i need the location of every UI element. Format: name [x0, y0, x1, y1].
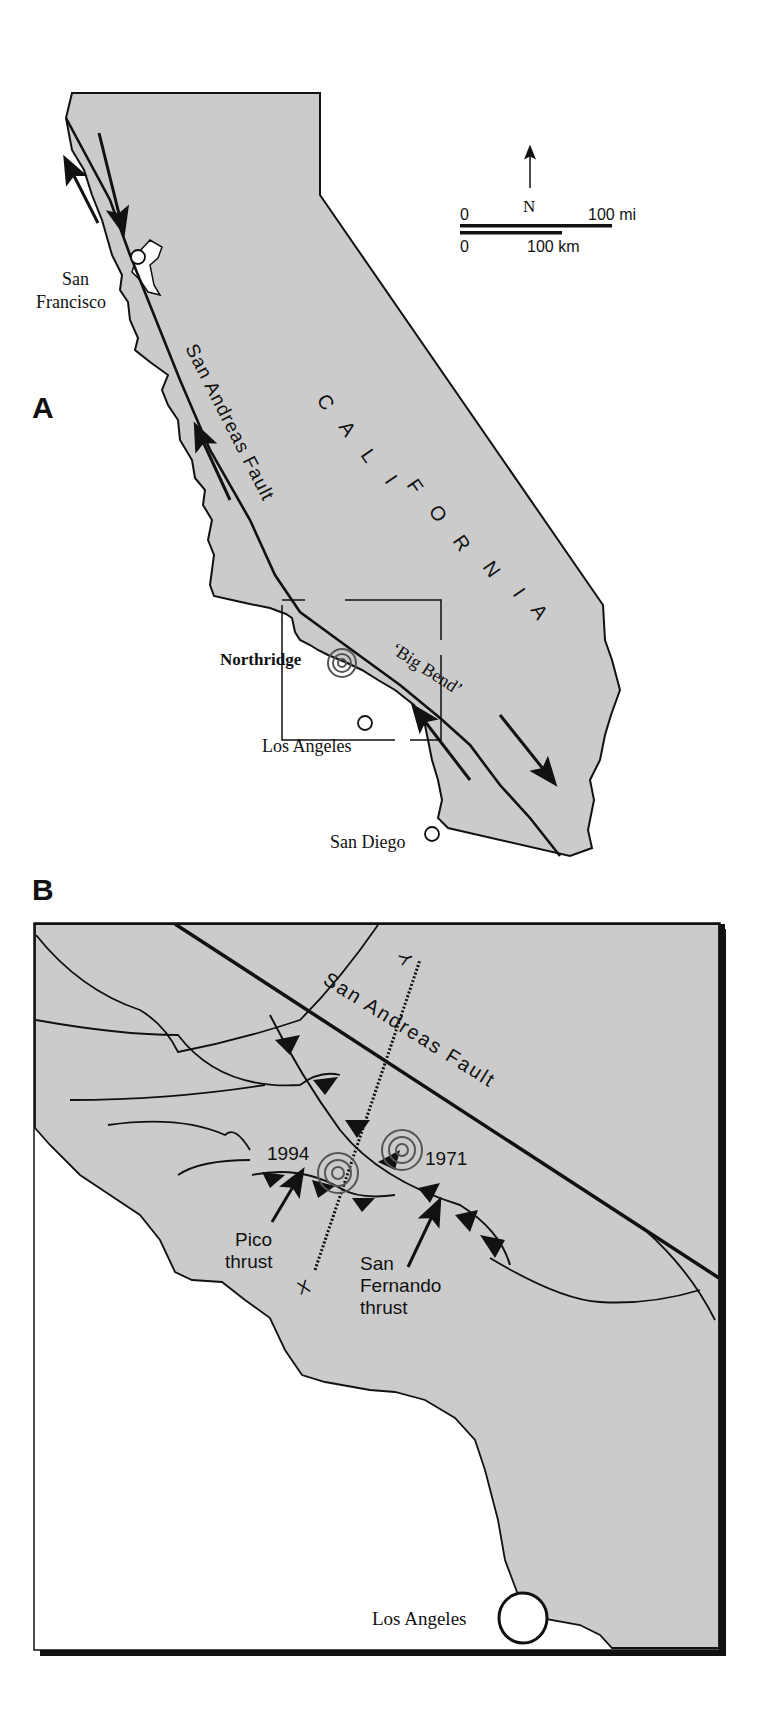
san-fernando-label-1: San: [360, 1253, 394, 1274]
san-fernando-label-2: Fernando: [360, 1275, 441, 1296]
pico-label-1: Pico: [235, 1229, 272, 1250]
los-angeles-label: Los Angeles: [262, 736, 352, 756]
los-angeles-city-icon: [499, 1593, 547, 1643]
panel-a: A San Francisco Los Angeles San Diego No…: [32, 93, 636, 856]
los-angeles-label-b: Los Angeles: [372, 1608, 466, 1629]
san-francisco-dot: [131, 250, 145, 264]
figure-canvas: A San Francisco Los Angeles San Diego No…: [0, 0, 757, 1712]
scale-mi-zero: 0: [460, 206, 469, 223]
quake-1994-label: 1994: [267, 1143, 310, 1164]
panel-b: B: [32, 873, 726, 1656]
scale-mi-label: 100 mi: [588, 206, 636, 223]
san-francisco-label-1: San: [62, 269, 89, 289]
san-francisco-label-2: Francisco: [36, 292, 106, 312]
los-angeles-dot: [358, 716, 372, 730]
san-diego-label: San Diego: [330, 832, 406, 852]
scale-bar-mi: [460, 224, 612, 228]
northridge-label: Northridge: [220, 650, 302, 669]
northridge-epicenter-icon: [328, 649, 356, 677]
scale-bar-km: [460, 231, 562, 235]
san-diego-dot: [425, 827, 439, 841]
panel-b-label: B: [32, 873, 54, 906]
scale-km-zero: 0: [460, 238, 469, 255]
san-fernando-label-3: thrust: [360, 1297, 408, 1318]
scale-km-label: 100 km: [527, 238, 579, 255]
panel-a-label: A: [32, 391, 54, 424]
quake-1971-label: 1971: [425, 1148, 467, 1169]
pico-label-2: thrust: [225, 1251, 273, 1272]
north-label: N: [523, 197, 535, 216]
